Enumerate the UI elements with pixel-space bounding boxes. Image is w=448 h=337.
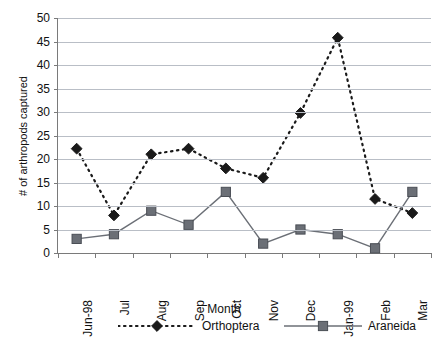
data-point [109, 210, 120, 221]
y-tick-mark [54, 206, 58, 207]
y-tick-label: 20 [28, 153, 50, 165]
x-axis-tick-labels: Jun-98JulAugSepOctNovDecJan-99FebMar [57, 256, 430, 302]
y-tick-label: 5 [28, 224, 50, 236]
legend-swatch [118, 319, 196, 333]
y-tick-mark [54, 18, 58, 19]
data-point [71, 143, 82, 154]
data-point [220, 163, 231, 174]
y-tick-label: 15 [28, 177, 50, 189]
y-tick-mark [54, 159, 58, 160]
plot-area [57, 18, 431, 254]
x-tick-mark [431, 253, 432, 258]
y-tick-label: 0 [28, 247, 50, 259]
data-point [333, 230, 342, 239]
data-point [184, 220, 193, 229]
y-tick-mark [54, 136, 58, 137]
gridline [58, 183, 431, 184]
gridline [58, 42, 431, 43]
y-tick-label: 40 [28, 59, 50, 71]
legend-item-orthoptera: Orthoptera [118, 316, 259, 336]
gridline [58, 159, 431, 160]
y-tick-label: 50 [28, 12, 50, 24]
legend-item-araneida: Araneida [284, 316, 416, 336]
gridline [58, 65, 431, 66]
data-point [221, 187, 230, 196]
data-point [183, 143, 194, 154]
gridline [58, 89, 431, 90]
data-point [370, 194, 381, 205]
legend-label: Araneida [368, 319, 416, 333]
data-point [259, 239, 268, 248]
legend-label: Orthoptera [202, 319, 259, 333]
y-tick-mark [54, 230, 58, 231]
series-orthoptera [71, 32, 418, 220]
x-axis-title: Month [0, 302, 448, 316]
y-tick-label: 35 [28, 83, 50, 95]
series-line [77, 192, 413, 248]
gridline [58, 206, 431, 207]
y-tick-mark [54, 42, 58, 43]
series-araneida [72, 187, 417, 253]
y-tick-mark [54, 112, 58, 113]
y-axis-tick-labels: 05101520253035404550 [24, 0, 50, 336]
y-tick-mark [54, 183, 58, 184]
data-point [408, 187, 417, 196]
y-tick-mark [54, 65, 58, 66]
data-point [109, 230, 118, 239]
y-tick-label: 30 [28, 106, 50, 118]
y-tick-mark [54, 89, 58, 90]
y-tick-label: 25 [28, 130, 50, 142]
data-point [147, 206, 156, 215]
data-point [407, 208, 418, 219]
chart-legend: OrthopteraAraneida [0, 316, 448, 336]
y-tick-label: 10 [28, 200, 50, 212]
gridline [58, 112, 431, 113]
gridline [58, 230, 431, 231]
data-point [72, 234, 81, 243]
gridline [58, 18, 431, 19]
gridline [58, 136, 431, 137]
data-point [370, 244, 379, 253]
y-tick-label: 45 [28, 36, 50, 48]
legend-swatch [284, 319, 362, 333]
